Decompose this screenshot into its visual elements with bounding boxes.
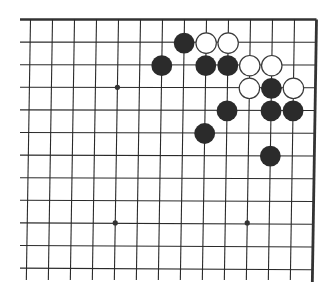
- star-point: [245, 220, 250, 225]
- vertical-line: [70, 20, 74, 281]
- black-stone: [260, 146, 281, 167]
- black-stone: [217, 55, 238, 76]
- vertical-line: [26, 20, 30, 281]
- black-stone: [283, 101, 304, 122]
- vertical-line: [48, 20, 52, 281]
- white-stone: [218, 33, 238, 53]
- right-edge: [312, 20, 316, 283]
- black-stone: [194, 123, 215, 144]
- star-point: [115, 85, 120, 90]
- white-stone: [283, 78, 303, 98]
- vertical-line: [180, 20, 184, 281]
- go-board: [0, 0, 336, 298]
- black-stone: [261, 101, 282, 122]
- white-stone: [262, 55, 282, 75]
- black-stone: [151, 55, 172, 76]
- white-stone: [196, 33, 216, 53]
- vertical-line: [136, 20, 140, 281]
- white-stone: [240, 55, 260, 75]
- star-point: [113, 220, 118, 225]
- vertical-line: [92, 20, 96, 281]
- vertical-line: [290, 20, 294, 281]
- black-stone: [174, 33, 195, 54]
- black-stone: [217, 101, 238, 122]
- white-stone: [239, 78, 259, 98]
- black-stone: [261, 78, 282, 99]
- black-stone: [195, 55, 216, 76]
- vertical-line: [114, 20, 118, 281]
